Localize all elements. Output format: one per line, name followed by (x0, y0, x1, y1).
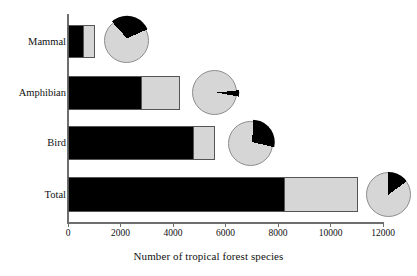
bar-segment-gray (141, 77, 179, 109)
bar-segment-gray (284, 178, 358, 211)
x-tick-mark (225, 223, 226, 227)
bar-segment-gray (193, 127, 214, 159)
bar-segment-black (69, 77, 141, 109)
x-tick-mark (330, 223, 331, 227)
x-tick-mark (68, 223, 69, 227)
x-axis-label: Number of tropical forest species (0, 250, 417, 262)
pie-slice-black (366, 172, 411, 217)
chart-figure: 020004000600080001000012000 Number of tr… (0, 0, 417, 276)
category-label-mammal: Mammal (28, 36, 66, 48)
bar-mammal (68, 25, 95, 58)
bar-amphibian (68, 76, 180, 110)
x-tick-mark (383, 223, 384, 227)
pie-slice-black (194, 70, 239, 115)
x-tick-label: 6000 (216, 228, 235, 239)
pie-chart-bird (228, 121, 273, 166)
x-tick-label: 4000 (164, 228, 183, 239)
x-tick-label: 2000 (111, 228, 130, 239)
category-label-bird: Bird (47, 137, 66, 149)
bar-segment-black (69, 127, 193, 159)
bar-total (68, 177, 358, 212)
x-tick-label: 8000 (269, 228, 288, 239)
bar-segment-black (69, 178, 284, 211)
x-tick-label: 10000 (319, 228, 343, 239)
pie-chart-amphibian (192, 70, 237, 115)
pie-slice-black (230, 120, 275, 165)
pie-chart-total (366, 172, 411, 217)
category-label-amphibian: Amphibian (19, 87, 66, 99)
bar-segment-black (69, 26, 83, 57)
pie-chart-mammal (104, 18, 149, 63)
x-tick-mark (120, 223, 121, 227)
x-tick-mark (278, 223, 279, 227)
x-tick-label: 12000 (371, 228, 395, 239)
bar-segment-gray (83, 26, 94, 57)
bar-bird (68, 126, 215, 160)
pie-slice-black (104, 16, 149, 61)
x-tick-mark (173, 223, 174, 227)
x-tick-label: 0 (66, 228, 71, 239)
category-label-total: Total (45, 189, 66, 201)
